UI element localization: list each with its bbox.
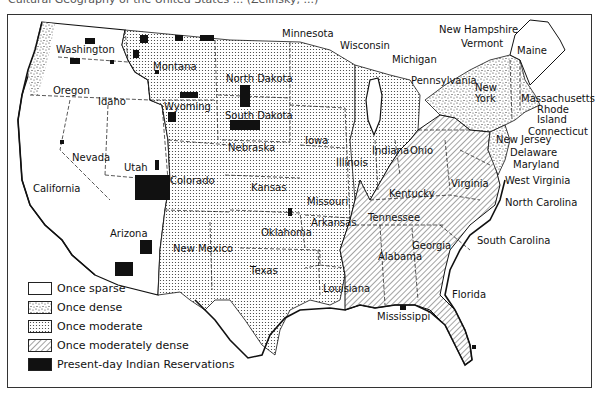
state-label-georgia: Georgia [412, 240, 451, 251]
state-label-colorado: Colorado [170, 175, 215, 186]
legend-label: Once moderately dense [57, 339, 189, 352]
state-label-new-mexico: New Mexico [173, 243, 233, 254]
legend-item-indian-reservations: Present-day Indian Reservations [28, 355, 234, 374]
state-label-washington: Washington [56, 44, 115, 55]
state-label-tennessee: Tennessee [368, 212, 420, 223]
legend-item-once-dense: Once dense [28, 298, 234, 317]
state-label-iowa: Iowa [305, 135, 328, 146]
state-label-missouri: Missouri [307, 196, 348, 207]
map-legend: Once sparse Once dense Once moderate Onc… [28, 279, 234, 374]
state-label-nevada: Nevada [72, 152, 110, 163]
state-label-pennsylvania: Pennsylvania [411, 75, 477, 86]
swatch-hatch-icon [28, 339, 52, 352]
swatch-solid-icon [28, 358, 52, 371]
state-label-utah: Utah [124, 162, 148, 173]
state-label-alabama: Alabama [378, 251, 422, 262]
state-label-delaware: Delaware [510, 147, 557, 158]
state-label-arizona: Arizona [110, 228, 148, 239]
state-label-mississippi: Mississippi [377, 311, 430, 322]
state-label-kansas: Kansas [251, 182, 286, 193]
state-label-vermont: Vermont [461, 38, 503, 49]
legend-label: Once sparse [57, 282, 125, 295]
state-label-indiana: Indiana [372, 145, 409, 156]
swatch-blank-icon [28, 282, 52, 295]
state-label-nebraska: Nebraska [228, 142, 275, 153]
state-label-arkansas: Arkansas [311, 217, 357, 228]
state-label-illinois: Illinois [336, 157, 368, 168]
state-label-florida: Florida [452, 289, 486, 300]
legend-label: Once dense [57, 301, 122, 314]
state-label-louisiana: Louisiana [323, 283, 370, 294]
state-label-montana: Montana [153, 61, 197, 72]
legend-item-once-moderately-dense: Once moderately dense [28, 336, 234, 355]
state-label-massachusetts: Massachusetts [521, 93, 595, 104]
state-label-south-dakota: South Dakota [225, 110, 293, 121]
swatch-dots-icon [28, 320, 52, 333]
legend-label: Present-day Indian Reservations [57, 358, 234, 371]
swatch-stipple-icon [28, 301, 52, 314]
state-label-wisconsin: Wisconsin [340, 40, 390, 51]
state-label-north-dakota: North Dakota [226, 73, 293, 84]
state-label-rhode-island-line2: Island [537, 114, 567, 125]
state-label-oregon: Oregon [53, 85, 90, 96]
legend-item-once-sparse: Once sparse [28, 279, 234, 298]
state-label-michigan: Michigan [392, 54, 437, 65]
state-label-kentucky: Kentucky [389, 188, 435, 199]
state-label-new-hampshire: New Hampshire [439, 24, 518, 35]
state-label-maine: Maine [517, 45, 547, 56]
state-label-new-york-line1: New [475, 82, 497, 93]
state-label-west-virginia: West Virginia [505, 175, 570, 186]
state-label-oklahoma: Oklahoma [261, 227, 312, 238]
state-label-wyoming: Wyoming [164, 101, 211, 112]
state-label-texas: Texas [250, 265, 278, 276]
state-label-connecticut: Connecticut [528, 126, 588, 137]
state-label-idaho: Idaho [98, 96, 126, 107]
state-label-california: California [33, 183, 81, 194]
state-label-maryland: Maryland [513, 159, 559, 170]
state-label-minnesota: Minnesota [282, 28, 334, 39]
state-label-north-carolina: North Carolina [505, 197, 577, 208]
legend-item-once-moderate: Once moderate [28, 317, 234, 336]
state-label-new-york-line2: York [475, 93, 496, 104]
state-label-ohio: Ohio [410, 145, 433, 156]
legend-label: Once moderate [57, 320, 142, 333]
state-label-virginia: Virginia [451, 178, 489, 189]
state-label-south-carolina: South Carolina [477, 235, 550, 246]
